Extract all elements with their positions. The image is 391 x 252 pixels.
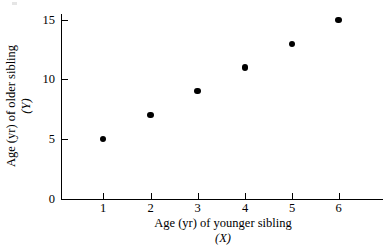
data-point [289,41,295,47]
y-axis-line [61,14,62,200]
x-axis-line [61,199,383,200]
x-axis-title: Age (yr) of younger sibling (X) [62,216,384,246]
scatter-plot-figure: 0 5 10 15 1 2 3 4 5 6 Age (yr) of older … [0,0,391,252]
data-point [147,112,153,118]
x-axis-tick [339,193,340,199]
x-axis-title-symbol: (X) [62,231,384,246]
x-axis-tick [103,193,104,199]
x-axis-tick-label: 6 [324,202,354,215]
data-point [242,64,248,70]
y-axis-title-symbol: (Y) [19,6,34,206]
y-axis-tick [62,199,68,200]
x-axis-tick-label: 4 [230,202,260,215]
y-axis-title-text: Age (yr) of older sibling [4,6,19,206]
data-point [100,136,106,142]
x-axis-tick [245,193,246,199]
x-axis-title-text: Age (yr) of younger sibling [62,216,384,231]
data-point [194,88,200,94]
x-axis-tick-label: 5 [277,202,307,215]
x-axis-tick-label: 1 [88,202,118,215]
y-axis-tick [62,20,68,21]
y-axis-tick [62,139,68,140]
x-axis-tick [198,193,199,199]
data-point [335,17,341,23]
scan-speck-artifact [12,2,17,5]
x-axis-tick [151,193,152,199]
x-axis-tick [292,193,293,199]
y-axis-title: Age (yr) of older sibling (Y) [4,6,38,206]
y-axis-tick [62,79,68,80]
x-axis-tick-label: 3 [183,202,213,215]
x-axis-tick-label: 2 [136,202,166,215]
